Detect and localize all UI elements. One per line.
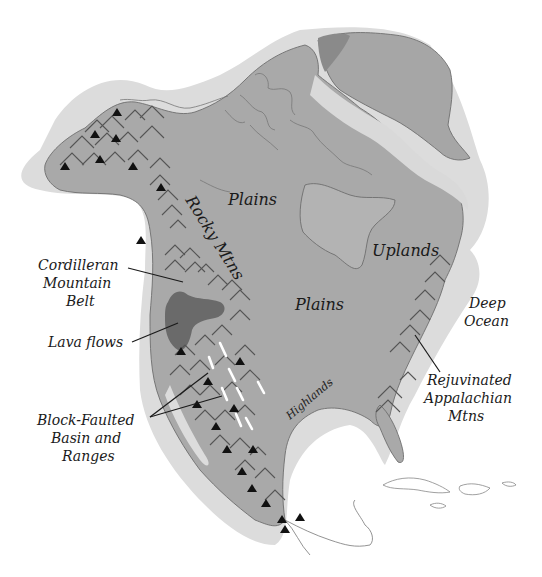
central-america-coastline [285,500,372,555]
label-plains-central: Plains [294,295,344,314]
label-cordilleran-1: Cordilleran [38,257,119,273]
label-cordilleran-3: Belt [65,293,95,309]
cuba [383,478,450,493]
volcano-icon [295,513,305,521]
volcano-icon [136,236,146,244]
label-block-faulted-3: Ranges [61,448,115,464]
label-uplands: Uplands [372,241,439,260]
label-rejuvinated-3: Mtns [447,408,484,424]
label-deep-ocean-1: Deep [468,295,506,311]
label-block-faulted-2: Basin and [50,430,121,446]
hispaniola [459,484,490,495]
label-lava-flows: Lava flows [47,334,123,350]
label-plains-north: Plains [227,190,277,209]
puerto-rico [502,482,516,486]
label-block-faulted-1: Block-Faulted [36,412,135,428]
label-deep-ocean-2: Ocean [464,313,509,329]
label-rejuvinated-1: Rejuvinated [426,372,512,388]
label-rejuvinated-2: Appalachian [422,390,512,406]
jamaica [430,503,446,508]
label-cordilleran-2: Mountain [42,275,111,291]
north-america-map: Plains Plains Uplands Rocky Mtns Highlan… [0,0,542,577]
